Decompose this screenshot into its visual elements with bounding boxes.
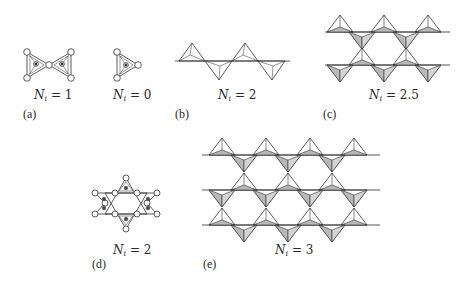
label-value: = 1 (51, 88, 73, 102)
panel-a-bowtie (24, 49, 75, 82)
label-sub: i (124, 94, 127, 103)
figure-graphics (0, 0, 472, 284)
label-var: N (369, 88, 380, 102)
label-sub: i (286, 249, 289, 258)
label-sub: i (45, 94, 48, 103)
label-e: Ni = 3 (275, 244, 313, 258)
panel-c-double-chain (325, 15, 450, 82)
label-sub: i (380, 94, 383, 103)
label-value: = 0 (130, 88, 152, 102)
label-sub: i (124, 249, 127, 258)
label-c: Ni = 2.5 (369, 89, 419, 103)
panel-a-triangle (114, 49, 142, 82)
label-b: Ni = 2 (218, 89, 256, 103)
label-value: = 3 (292, 243, 314, 257)
panel-d-ring (92, 175, 160, 232)
figure-canvas: Ni = 1 Ni = 0 (a) Ni = 2 (b) Ni = 2.5 (c… (0, 0, 472, 284)
label-sub: i (229, 94, 232, 103)
panel-letter-b: (b) (175, 108, 189, 120)
label-a2: Ni = 0 (113, 89, 151, 103)
label-var: N (113, 243, 124, 257)
panel-letter-d: (d) (92, 258, 106, 270)
label-a1: Ni = 1 (34, 89, 72, 103)
label-var: N (275, 243, 286, 257)
label-value: = 2 (235, 88, 257, 102)
panel-b-chain (175, 43, 290, 80)
label-d: Ni = 2 (113, 244, 151, 258)
panel-letter-a: (a) (23, 108, 36, 120)
label-value: = 2 (130, 243, 152, 257)
panel-letter-e: (e) (203, 258, 216, 270)
panel-e-sheet (202, 138, 380, 242)
panel-letter-c: (c) (323, 108, 336, 120)
label-var: N (34, 88, 45, 102)
label-var: N (218, 88, 229, 102)
label-value: = 2.5 (386, 88, 419, 102)
label-var: N (113, 88, 124, 102)
